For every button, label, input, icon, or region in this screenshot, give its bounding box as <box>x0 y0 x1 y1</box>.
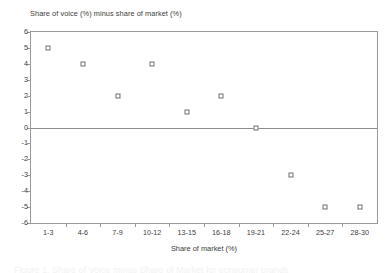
x-axis-label: 1-3 <box>43 229 53 236</box>
y-axis-label: -1 <box>22 140 28 147</box>
data-point-marker <box>80 61 85 66</box>
data-point-marker <box>253 125 258 130</box>
x-axis-tick <box>239 223 240 227</box>
x-axis-label: 28-30 <box>350 229 368 236</box>
x-axis-title: Share of market (%) <box>30 244 378 253</box>
data-point-marker <box>115 93 120 98</box>
y-axis-label: -6 <box>22 219 28 226</box>
x-axis-label: 16-18 <box>212 229 230 236</box>
chart-title: Share of voice (%) minus share of market… <box>30 9 182 18</box>
y-axis-label: 0 <box>24 124 28 131</box>
x-axis-tick <box>169 223 170 227</box>
data-point-marker <box>46 45 51 50</box>
figure-caption: Figure 1. Share of Voice minus Share of … <box>14 265 384 273</box>
x-axis-label: 7-9 <box>112 229 122 236</box>
y-axis-label: 2 <box>24 92 28 99</box>
y-axis-label: -4 <box>22 188 28 195</box>
x-axis-tick <box>204 223 205 227</box>
data-point-marker <box>288 173 293 178</box>
x-axis-label: 25-27 <box>316 229 334 236</box>
x-axis-label: 4-6 <box>78 229 88 236</box>
zero-reference-line <box>31 128 377 129</box>
y-axis-label: 1 <box>24 108 28 115</box>
scatter-chart-figure: Share of voice (%) minus share of market… <box>0 0 392 273</box>
data-point-marker <box>219 93 224 98</box>
x-axis-tick <box>273 223 274 227</box>
y-axis-label: -5 <box>22 203 28 210</box>
data-point-marker <box>184 109 189 114</box>
x-axis-tick <box>100 223 101 227</box>
x-axis-label: 10-12 <box>143 229 161 236</box>
y-axis-label: 3 <box>24 76 28 83</box>
y-axis-label: 6 <box>24 28 28 35</box>
y-axis-label: 4 <box>24 60 28 67</box>
plot-area: 6543210-1-2-3-4-5-61-34-67-910-1213-1516… <box>30 31 378 224</box>
x-axis-label: 13-15 <box>177 229 195 236</box>
x-axis-tick <box>342 223 343 227</box>
x-axis-tick <box>66 223 67 227</box>
y-axis-label: -3 <box>22 172 28 179</box>
data-point-marker <box>357 205 362 210</box>
x-axis-tick <box>308 223 309 227</box>
x-axis-label: 19-21 <box>247 229 265 236</box>
y-axis-label: -2 <box>22 156 28 163</box>
y-axis-label: 5 <box>24 44 28 51</box>
x-axis-label: 22-24 <box>281 229 299 236</box>
data-point-marker <box>323 205 328 210</box>
x-axis-tick <box>135 223 136 227</box>
data-point-marker <box>150 61 155 66</box>
